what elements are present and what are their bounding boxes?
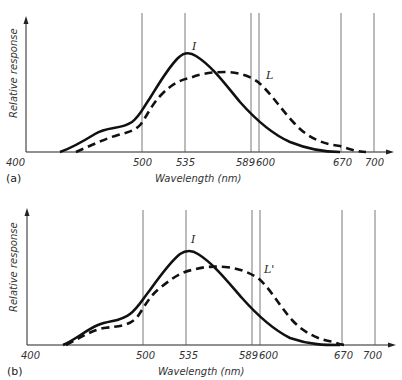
y-axis-label: Relative response <box>8 28 19 118</box>
curve-label-l-prime: L' <box>263 263 274 276</box>
curve-label-i: I <box>190 233 196 246</box>
tick-535: 535 <box>176 157 195 168</box>
tick-670: 670 <box>333 157 352 168</box>
tick-400: 400 <box>21 350 40 361</box>
panel-a: I L 400 500 535 589 600 670 700 Waveleng… <box>6 13 394 185</box>
tick-600: 600 <box>259 350 278 361</box>
x-axis-label: Wavelength (nm) <box>158 366 244 377</box>
x-axis-arrow-icon <box>386 150 394 155</box>
tick-700: 700 <box>365 157 384 168</box>
figure: I L 400 500 535 589 600 670 700 Waveleng… <box>0 0 402 380</box>
panel-label-b: (b) <box>7 365 23 378</box>
tick-700: 700 <box>363 350 382 361</box>
x-axis-arrow-icon <box>388 343 396 348</box>
tick-535: 535 <box>179 350 198 361</box>
curve-i-solid <box>63 251 340 345</box>
y-axis-arrow-icon <box>25 208 30 216</box>
curve-label-i: I <box>191 40 197 53</box>
x-tick-labels: 400 500 535 589 600 670 700 <box>6 157 384 168</box>
tick-500: 500 <box>136 350 155 361</box>
tick-600: 600 <box>256 157 275 168</box>
panel-label-a: (a) <box>6 172 21 185</box>
panel-b: I L' 400 500 535 589 600 670 700 Wavelen… <box>7 208 396 378</box>
x-tick-labels: 400 500 535 589 600 670 700 <box>21 350 382 361</box>
x-axis-label: Wavelength (nm) <box>155 173 241 184</box>
tick-589: 589 <box>239 350 258 361</box>
y-axis-arrow-icon <box>24 16 29 24</box>
y-axis-label: Relative response <box>8 222 19 312</box>
reference-lines <box>143 210 375 345</box>
curve-i-solid <box>60 53 340 152</box>
curve-l-dashed <box>76 72 366 152</box>
tick-400: 400 <box>6 157 25 168</box>
curve-label-l: L <box>265 69 273 82</box>
tick-589: 589 <box>236 157 255 168</box>
curve-l-prime-dashed <box>66 267 348 345</box>
tick-670: 670 <box>334 350 353 361</box>
tick-500: 500 <box>133 157 152 168</box>
